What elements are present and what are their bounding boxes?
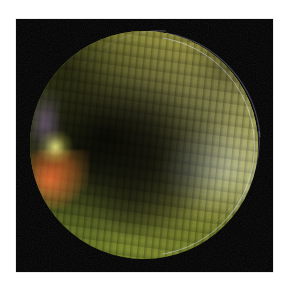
sky-background	[16, 19, 273, 272]
figure-root: Clumpy yellow-green shell of supernova e…	[0, 0, 292, 289]
image-grain	[16, 19, 273, 272]
